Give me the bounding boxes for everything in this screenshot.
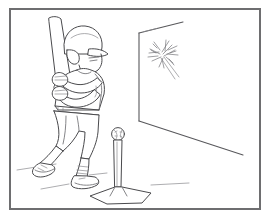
illustration-frame: Baseball batter hitting off a tee toward…	[0, 0, 270, 222]
back-leg-and-shoe	[32, 146, 63, 177]
front-leg-and-shoe	[71, 158, 99, 189]
impact-mark	[148, 40, 179, 79]
ball-on-tee	[112, 128, 125, 141]
wall	[139, 22, 243, 155]
batting-tee	[90, 128, 151, 204]
helmet-and-head	[64, 26, 108, 73]
line-art-drawing	[11, 10, 259, 208]
